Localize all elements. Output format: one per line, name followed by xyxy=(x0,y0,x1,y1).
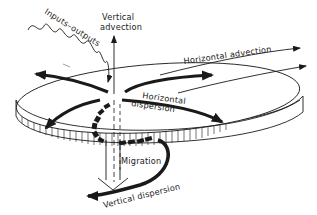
label-vertical-advection-2: advection xyxy=(100,22,142,32)
diagram-svg: Inputs–outputs Vertical advection Horizo… xyxy=(0,0,317,215)
transport-processes-diagram: Inputs–outputs Vertical advection Horizo… xyxy=(0,0,317,215)
label-horizontal-advection: Horizontal advection xyxy=(183,44,272,66)
label-vertical-advection-1: Vertical xyxy=(102,12,134,22)
label-inputs-outputs: Inputs–outputs xyxy=(43,6,102,48)
label-migration: Migration xyxy=(121,156,161,166)
